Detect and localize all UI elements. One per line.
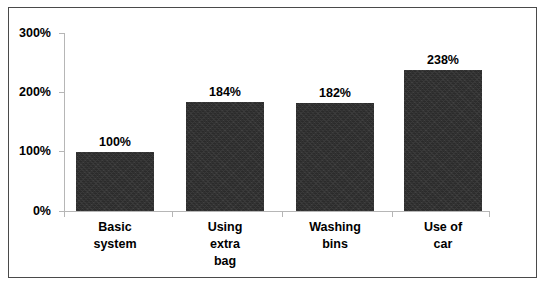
chart-figure: 300% 200% 100% 0% 100% 184% 182% 238% xyxy=(0,0,545,285)
bar-use-of-car: 238% xyxy=(404,70,482,211)
x-category-line: bag xyxy=(186,253,264,270)
x-tick-1 xyxy=(172,211,173,217)
y-axis-line xyxy=(64,33,65,211)
x-category-line: Using xyxy=(186,219,264,236)
x-category-line: bins xyxy=(296,236,374,253)
y-tick-label-0: 0% xyxy=(33,204,51,218)
x-category-line: Washing xyxy=(296,219,374,236)
x-axis-line xyxy=(64,211,490,212)
bar-basic-system: 100% xyxy=(76,152,154,211)
x-tick-3 xyxy=(392,211,393,217)
y-tick-label-200: 200% xyxy=(19,85,51,99)
bar-washing-bins: 182% xyxy=(296,103,374,211)
x-category-line: system xyxy=(76,236,154,253)
y-tick-100: 100% xyxy=(59,151,65,152)
bar-value-basic-system: 100% xyxy=(99,135,131,149)
y-tick-label-100: 100% xyxy=(19,144,51,158)
bar-value-using-extra-bag: 184% xyxy=(209,85,241,99)
y-tick-300: 300% xyxy=(59,33,65,34)
y-tick-200: 200% xyxy=(59,92,65,93)
x-category-line: car xyxy=(404,236,482,253)
x-category-line: extra xyxy=(186,236,264,253)
x-category-label-use-of-car: Use of car xyxy=(404,219,482,253)
x-category-label-washing-bins: Washing bins xyxy=(296,219,374,253)
x-category-line: Use of xyxy=(404,219,482,236)
x-tick-2 xyxy=(282,211,283,217)
x-category-label-using-extra-bag: Using extra bag xyxy=(186,219,264,270)
x-tick-0 xyxy=(64,211,65,217)
x-category-label-basic-system: Basic system xyxy=(76,219,154,253)
x-tick-4 xyxy=(489,211,490,217)
bar-value-use-of-car: 238% xyxy=(427,53,459,67)
x-category-line: Basic xyxy=(76,219,154,236)
plot-area: 300% 200% 100% 0% 100% 184% 182% 238% xyxy=(64,33,490,211)
bar-value-washing-bins: 182% xyxy=(319,86,351,100)
bar-using-extra-bag: 184% xyxy=(186,102,264,211)
y-tick-label-300: 300% xyxy=(19,26,51,40)
